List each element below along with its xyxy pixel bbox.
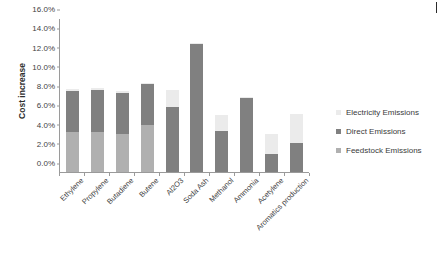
- x-axis-label: Ammonia: [231, 176, 260, 205]
- legend-label: Feedstock Emissions: [346, 146, 422, 155]
- legend-swatch-icon: [336, 110, 341, 115]
- bar-segment-direct-emissions: [265, 154, 278, 172]
- y-axis-tick-label: 2.0%: [37, 139, 60, 148]
- legend-swatch-icon: [336, 148, 341, 153]
- legend-item[interactable]: Direct Emissions: [336, 126, 444, 136]
- bar-slot: [60, 19, 85, 172]
- bar-stack[interactable]: [190, 43, 203, 172]
- bar-slot: [110, 19, 135, 172]
- y-axis-tick-label: 6.0%: [37, 101, 60, 110]
- legend-item[interactable]: Electricity Emissions: [336, 107, 444, 117]
- bar-slot: [259, 19, 284, 172]
- bar-segment-direct-emissions: [190, 44, 203, 172]
- bar-slot: [160, 19, 185, 172]
- y-axis-tick-label: 16.0%: [32, 5, 60, 14]
- bar-segment-direct-emissions: [240, 98, 253, 172]
- bar-segment-electricity-emissions: [265, 134, 278, 154]
- bar-slot: [85, 19, 110, 172]
- bar-segment-feedstock-emissions: [66, 132, 79, 172]
- x-axis-label: Soda Ash: [181, 176, 210, 205]
- chart-legend: Electricity EmissionsDirect EmissionsFee…: [336, 107, 444, 164]
- bar-stack[interactable]: [290, 114, 303, 172]
- bar-segment-direct-emissions: [166, 107, 179, 172]
- bar-slot: [209, 19, 234, 172]
- x-axis-labels: EthylenePropyleneButadieneButeneAl2O3Sod…: [59, 176, 309, 246]
- bar-stack[interactable]: [66, 89, 79, 172]
- bar-segment-direct-emissions: [91, 90, 104, 131]
- x-axis-label: Al2O3: [164, 176, 185, 197]
- stacked-bar-chart: Cost increase 0.0%2.0%4.0%6.0%8.0%10.0%1…: [0, 0, 447, 255]
- legend-label: Electricity Emissions: [346, 108, 419, 117]
- bar-segment-feedstock-emissions: [141, 125, 154, 172]
- page-edge-mark: [436, 2, 437, 13]
- y-axis-tick-label: 0.0%: [37, 159, 60, 168]
- x-axis-label: Butene: [137, 176, 160, 199]
- legend-swatch-icon: [336, 129, 341, 134]
- bar-segment-direct-emissions: [141, 84, 154, 125]
- bar-slot: [135, 19, 160, 172]
- bar-slot: [184, 19, 209, 172]
- y-axis-title: Cost increase: [17, 36, 27, 146]
- bar-segment-electricity-emissions: [166, 90, 179, 107]
- bar-slot: [234, 19, 259, 172]
- bar-segment-feedstock-emissions: [91, 132, 104, 172]
- bar-stack[interactable]: [265, 134, 278, 172]
- bar-segment-electricity-emissions: [215, 115, 228, 130]
- bar-segment-direct-emissions: [290, 143, 303, 172]
- bar-segment-electricity-emissions: [290, 114, 303, 142]
- plot-area: 0.0%2.0%4.0%6.0%8.0%10.0%12.0%14.0%16.0%: [59, 19, 309, 173]
- y-axis-tick-label: 8.0%: [37, 82, 60, 91]
- y-axis-tick-label: 10.0%: [32, 62, 60, 71]
- y-axis-tick-label: 4.0%: [37, 120, 60, 129]
- x-axis-tick-mark: [309, 173, 310, 176]
- x-axis-label: Methanol: [207, 176, 235, 204]
- bar-stack[interactable]: [116, 91, 129, 172]
- bar-segment-direct-emissions: [66, 91, 79, 132]
- bar-segment-direct-emissions: [215, 131, 228, 172]
- y-axis-tick-label: 14.0%: [32, 24, 60, 33]
- bar-stack[interactable]: [91, 88, 104, 172]
- bar-slot: [284, 19, 309, 172]
- bar-stack[interactable]: [215, 115, 228, 172]
- bar-segment-feedstock-emissions: [116, 134, 129, 172]
- legend-item[interactable]: Feedstock Emissions: [336, 145, 444, 155]
- y-axis-tick-label: 12.0%: [32, 43, 60, 52]
- bars-layer: [60, 19, 309, 172]
- bar-stack[interactable]: [166, 90, 179, 172]
- bar-stack[interactable]: [240, 97, 253, 172]
- legend-label: Direct Emissions: [346, 127, 406, 136]
- bar-stack[interactable]: [141, 83, 154, 172]
- bar-segment-direct-emissions: [116, 93, 129, 135]
